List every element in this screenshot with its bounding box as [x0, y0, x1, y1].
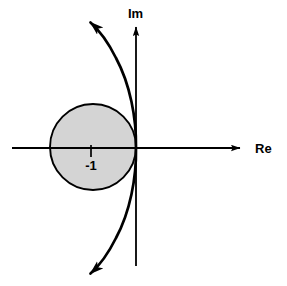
stability-disk [50, 104, 136, 190]
real-axis-label: Re [255, 141, 272, 156]
minus-one-label: -1 [85, 158, 97, 173]
imaginary-axis-label: Im [128, 6, 143, 21]
complex-plane-plot: Im Re -1 [0, 0, 287, 286]
complex-plane-figure: Im Re -1 [0, 0, 287, 286]
